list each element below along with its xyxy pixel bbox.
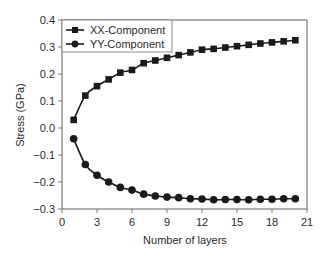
y-tick-label: −0.1 <box>33 149 55 161</box>
circle-marker <box>292 195 300 203</box>
y-tick-label: 0.4 <box>40 14 55 26</box>
circle-marker-icon <box>72 41 79 48</box>
stress-chart: 0.40.30.20.10.0−0.1−0.2−0.3 036912151821… <box>0 0 328 253</box>
legend-label-xx: XX-Component <box>90 24 165 36</box>
square-marker <box>82 92 89 99</box>
square-marker <box>175 52 182 59</box>
y-tick-label: −0.3 <box>33 203 55 215</box>
square-marker <box>234 43 241 50</box>
legend-label-yy: YY-Component <box>90 38 164 50</box>
circle-marker <box>257 195 265 203</box>
circle-marker <box>245 196 253 204</box>
y-tick-label: 0.1 <box>40 95 55 107</box>
circle-marker <box>117 184 125 192</box>
circle-marker <box>280 195 288 203</box>
square-marker <box>164 55 171 62</box>
square-marker <box>210 46 217 53</box>
square-marker <box>152 57 159 64</box>
square-marker <box>269 39 276 46</box>
data-series <box>70 37 299 204</box>
square-marker <box>292 37 299 44</box>
square-marker <box>70 117 77 124</box>
square-marker <box>222 44 229 51</box>
legend: XX-Component YY-Component <box>62 20 172 52</box>
x-tick-label: 6 <box>129 216 135 228</box>
circle-marker <box>268 195 276 203</box>
circle-marker <box>70 135 78 143</box>
square-marker <box>257 40 264 47</box>
x-tick-label: 12 <box>196 216 208 228</box>
y-axis-label: Stress (GPa) <box>14 83 26 147</box>
circle-marker <box>210 196 218 204</box>
x-tick-label: 0 <box>59 216 65 228</box>
x-tick-label: 3 <box>94 216 100 228</box>
x-tick-label: 18 <box>266 216 278 228</box>
circle-marker <box>175 194 183 202</box>
square-marker <box>199 46 206 53</box>
circle-marker <box>82 161 90 169</box>
circle-marker <box>222 196 230 204</box>
x-tick-label: 9 <box>164 216 170 228</box>
x-axis-ticks: 036912151821 <box>59 209 313 228</box>
square-marker <box>94 83 101 90</box>
y-tick-label: 0.3 <box>40 41 55 53</box>
square-marker <box>105 76 112 83</box>
x-tick-label: 21 <box>301 216 313 228</box>
square-marker-icon <box>72 27 78 33</box>
x-tick-label: 15 <box>231 216 243 228</box>
circle-marker <box>128 186 136 194</box>
series-yy-component <box>70 135 299 204</box>
circle-marker <box>105 178 113 186</box>
square-marker <box>117 69 124 76</box>
circle-marker <box>140 190 148 198</box>
y-tick-label: 0.2 <box>40 68 55 80</box>
square-marker <box>245 42 252 49</box>
y-tick-label: 0.0 <box>40 122 55 134</box>
square-marker <box>280 38 287 45</box>
square-marker <box>129 67 136 74</box>
y-axis-ticks: 0.40.30.20.10.0−0.1−0.2−0.3 <box>33 14 62 215</box>
circle-marker <box>152 192 160 200</box>
circle-marker <box>163 193 171 201</box>
square-marker <box>140 60 147 67</box>
y-tick-label: −0.2 <box>33 176 55 188</box>
circle-marker <box>198 195 206 203</box>
circle-marker <box>233 196 241 204</box>
circle-marker <box>93 171 101 179</box>
circle-marker <box>187 195 195 203</box>
x-axis-label: Number of layers <box>143 234 227 246</box>
square-marker <box>187 49 194 56</box>
